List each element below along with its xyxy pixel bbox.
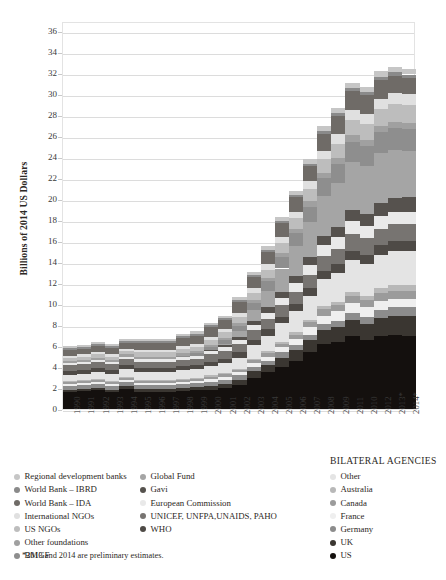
bar-segment: [360, 92, 374, 95]
y-axis-tick-label: 32: [17, 69, 57, 78]
bar-segment: [91, 372, 105, 378]
legend-heading: [140, 455, 315, 467]
bar-segment: [91, 342, 105, 344]
bar-segment: [303, 320, 317, 322]
bar-segment: [105, 390, 119, 392]
bar-segment: [204, 375, 218, 376]
bar-segment: [345, 292, 359, 296]
y-axis-tick-label: 28: [17, 111, 57, 120]
bar-segment: [388, 299, 402, 307]
legend-item[interactable]: Gavi: [140, 483, 315, 496]
legend-label: European Commission: [151, 499, 231, 508]
legend-item[interactable]: Other: [330, 470, 446, 483]
x-axis-tick-label: 2010: [369, 396, 379, 414]
bar-segment: [190, 334, 204, 336]
bar-segment: [289, 283, 303, 291]
bar-segment: [247, 293, 261, 300]
bar-segment: [261, 353, 275, 356]
legend-item[interactable]: Germany: [330, 523, 446, 536]
bar-segment: [218, 377, 232, 380]
y-axis-tick-label: 2: [17, 384, 57, 393]
bar-segment: [331, 108, 345, 113]
bar-segment: [247, 367, 261, 371]
bar-segment: [232, 313, 246, 317]
bar-segment: [360, 300, 374, 307]
bar-segment: [374, 288, 388, 292]
x-axis-tick-label: 1991: [86, 396, 96, 414]
legend-item[interactable]: France: [330, 510, 446, 523]
bar-segment: [77, 354, 91, 356]
bar-segment: [303, 335, 317, 340]
x-axis-tick-label: 2011: [355, 397, 365, 414]
bar-segment: [77, 380, 91, 381]
legend-item[interactable]: Canada: [330, 496, 446, 509]
bar-segment: [345, 162, 359, 210]
bar-segment: [345, 135, 359, 141]
bar-segment: [119, 380, 133, 382]
bar-segment: [261, 329, 275, 335]
bar-segment: [303, 189, 317, 202]
y-axis-tick-mark: [58, 326, 62, 327]
legend-swatch-icon: [330, 500, 336, 506]
legend-item[interactable]: Global Fund: [140, 470, 315, 483]
legend-item[interactable]: UK: [330, 536, 446, 549]
bar-segment: [105, 384, 119, 386]
bar-segment: [261, 357, 275, 361]
bar-segment: [134, 357, 148, 359]
legend-label: World Bank – IDA: [25, 499, 92, 508]
bar-segment: [374, 318, 388, 336]
bar-segment: [91, 358, 105, 360]
bar-segment: [261, 252, 275, 265]
bar-segment: [289, 276, 303, 283]
legend-item[interactable]: US: [330, 549, 446, 562]
bar-segment: [218, 359, 232, 363]
bar-segment: [119, 349, 133, 351]
legend-item[interactable]: UNICEF, UNFPA,UNAIDS, PAHO: [140, 510, 315, 523]
bar-segment: [63, 356, 77, 358]
bar-group: [402, 69, 416, 409]
legend-item[interactable]: Australia: [330, 483, 446, 496]
legend-item[interactable]: WHO: [140, 523, 315, 536]
bar-segment: [374, 293, 388, 301]
bar-segment: [388, 224, 402, 241]
bar-segment: [303, 164, 317, 166]
bar-segment: [162, 343, 176, 350]
bar-segment: [204, 325, 218, 327]
legend-item[interactable]: Other foundations: [14, 536, 164, 549]
bar-segment: [63, 390, 77, 392]
y-axis-tick-mark: [58, 179, 62, 180]
bar-segment: [162, 359, 176, 362]
bar-segment: [63, 363, 77, 365]
bar-segment: [345, 313, 359, 320]
bar-segment: [317, 271, 331, 279]
bar-segment: [190, 383, 204, 387]
bar-segment: [402, 151, 416, 197]
bar-segment: [275, 347, 289, 352]
bar-segment: [218, 338, 232, 340]
bar-group: [261, 246, 275, 409]
x-axis-tick-label: 2012: [383, 396, 393, 414]
bar-segment: [275, 344, 289, 347]
bar-segment: [134, 381, 148, 383]
bar-segment: [345, 251, 359, 260]
bar-segment: [148, 372, 162, 379]
bar-segment: [261, 336, 275, 352]
legend-label: Germany: [341, 525, 374, 534]
bar-segment: [360, 140, 374, 146]
legend-item[interactable]: European Commission: [140, 496, 315, 509]
bar-segment: [360, 307, 374, 316]
bar-segment: [204, 350, 218, 351]
bar-segment: [345, 210, 359, 222]
x-axis-tick-label: 2002: [242, 396, 252, 414]
bar-segment: [374, 153, 388, 203]
bar-group: [360, 87, 374, 409]
bar-segment: [176, 349, 190, 353]
bar-segment: [261, 361, 275, 365]
bar-segment: [360, 146, 374, 166]
y-axis-tick-label: 6: [17, 342, 57, 351]
bar-segment: [247, 371, 261, 377]
bar-segment: [360, 95, 374, 114]
bar-segment: [275, 342, 289, 344]
bar-segment: [232, 372, 246, 375]
bar-segment: [331, 305, 345, 311]
